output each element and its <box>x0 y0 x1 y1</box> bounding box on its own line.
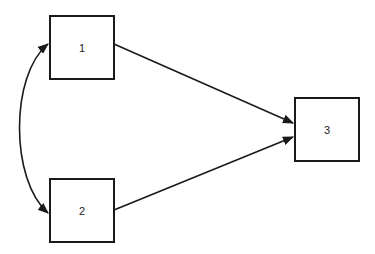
node-2: 2 <box>49 178 115 243</box>
edge-1-to-3 <box>114 44 293 123</box>
edge-1-2-correlation <box>20 44 49 213</box>
node-1: 1 <box>49 15 115 80</box>
node-2-label: 2 <box>79 205 85 217</box>
node-3-label: 3 <box>324 124 330 136</box>
node-3: 3 <box>294 97 360 162</box>
node-1-label: 1 <box>79 42 85 54</box>
edge-2-to-3 <box>114 137 293 210</box>
